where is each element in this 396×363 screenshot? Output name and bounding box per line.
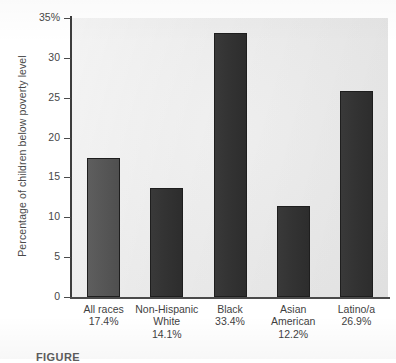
category-value-label: 26.9%: [325, 315, 388, 327]
y-axis-tick-label: 30: [0, 51, 60, 63]
figure-caption: FIGURE: [36, 351, 80, 363]
y-axis-tick-label: 15: [0, 170, 60, 182]
y-axis-title: Percentage of children below poverty lev…: [16, 31, 28, 281]
bar-non-hispanic[interactable]: [150, 188, 183, 297]
y-axis-tick-label: 0: [0, 290, 60, 302]
y-axis-tick-label: 20: [0, 131, 60, 143]
x-axis-category-label: Non-HispanicWhite14.1%: [135, 303, 198, 340]
y-axis-tick: [64, 297, 71, 298]
category-name: Non-Hispanic: [135, 303, 198, 315]
bar-all-races[interactable]: [87, 158, 120, 297]
y-axis-tick: [64, 138, 71, 139]
category-value-label: 12.2%: [262, 328, 325, 340]
bar-latino-a[interactable]: [340, 91, 373, 297]
bar-asian[interactable]: [277, 206, 310, 297]
category-name: Latino/a: [325, 303, 388, 315]
x-axis-category-label: AsianAmerican12.2%: [262, 303, 325, 340]
y-axis-tick-label: 5: [0, 250, 60, 262]
x-axis-category-label: All races17.4%: [72, 303, 135, 328]
y-axis-tick: [64, 217, 71, 218]
x-axis-category-label: Latino/a26.9%: [325, 303, 388, 328]
category-value-label: 33.4%: [198, 315, 261, 327]
bar-black[interactable]: [214, 33, 247, 297]
category-name-cont: American: [262, 315, 325, 327]
category-name: Asian: [262, 303, 325, 315]
category-name: Black: [198, 303, 261, 315]
y-axis-tick-label: 25: [0, 91, 60, 103]
y-axis-tick: [64, 177, 71, 178]
y-axis-tick: [64, 98, 71, 99]
category-name-cont: White: [135, 315, 198, 327]
y-axis-tick-label: 10: [0, 210, 60, 222]
category-value-label: 17.4%: [72, 315, 135, 327]
category-name: All races: [72, 303, 135, 315]
y-axis-tick: [64, 257, 71, 258]
x-axis-category-label: Black33.4%: [198, 303, 261, 328]
x-axis-line: [70, 297, 390, 299]
y-axis-tick-label: 35%: [0, 11, 60, 23]
category-value-label: 14.1%: [135, 328, 198, 340]
y-axis-tick: [64, 18, 71, 19]
y-axis-tick: [64, 58, 71, 59]
